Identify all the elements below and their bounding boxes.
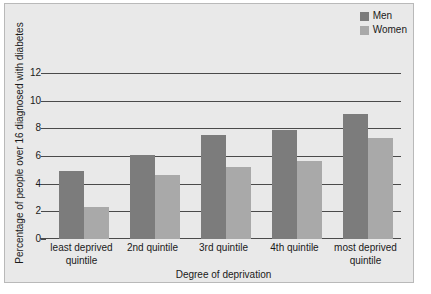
y-axis-title: Percentage of people over 16 diagnosed w… xyxy=(11,3,29,283)
y-tick-label: 6 xyxy=(35,151,41,161)
legend-swatch-women-icon xyxy=(360,26,369,35)
plot-area: 024681012 xyxy=(46,59,401,239)
chart-legend: Men Women xyxy=(360,10,407,36)
bar-women-4 xyxy=(297,161,322,239)
legend-item-men: Men xyxy=(360,10,407,22)
chart-figure: Men Women Percentage of people over 16 d… xyxy=(4,3,414,283)
bar-women-5 xyxy=(368,138,393,239)
bar-men-1 xyxy=(59,171,84,239)
bar-men-3 xyxy=(201,135,226,239)
bar-men-4 xyxy=(272,130,297,239)
legend-label-men: Men xyxy=(373,11,392,21)
bar-men-2 xyxy=(130,155,155,239)
y-tick-label: 10 xyxy=(30,96,41,106)
bar-series-container xyxy=(46,59,401,239)
legend-swatch-men-icon xyxy=(360,12,369,21)
y-tick-label: 12 xyxy=(30,68,41,78)
x-tick-label: most deprived quintile xyxy=(324,241,407,267)
bar-women-3 xyxy=(226,167,251,239)
legend-label-women: Women xyxy=(373,25,407,35)
bar-group xyxy=(259,59,330,239)
bar-men-5 xyxy=(343,114,368,239)
bar-group xyxy=(117,59,188,239)
bar-group xyxy=(330,59,401,239)
x-axis-tick-labels: least deprived quintile2nd quintile3rd q… xyxy=(46,241,401,269)
y-tick-label: 8 xyxy=(35,123,41,133)
y-tick-label: 4 xyxy=(35,179,41,189)
bar-group xyxy=(46,59,117,239)
bar-women-2 xyxy=(155,175,180,239)
bar-group xyxy=(188,59,259,239)
y-tick-mark xyxy=(41,239,46,240)
bar-women-1 xyxy=(84,207,109,239)
y-tick-label: 2 xyxy=(35,206,41,216)
legend-item-women: Women xyxy=(360,24,407,36)
x-axis-title: Degree of deprivation xyxy=(46,269,401,281)
